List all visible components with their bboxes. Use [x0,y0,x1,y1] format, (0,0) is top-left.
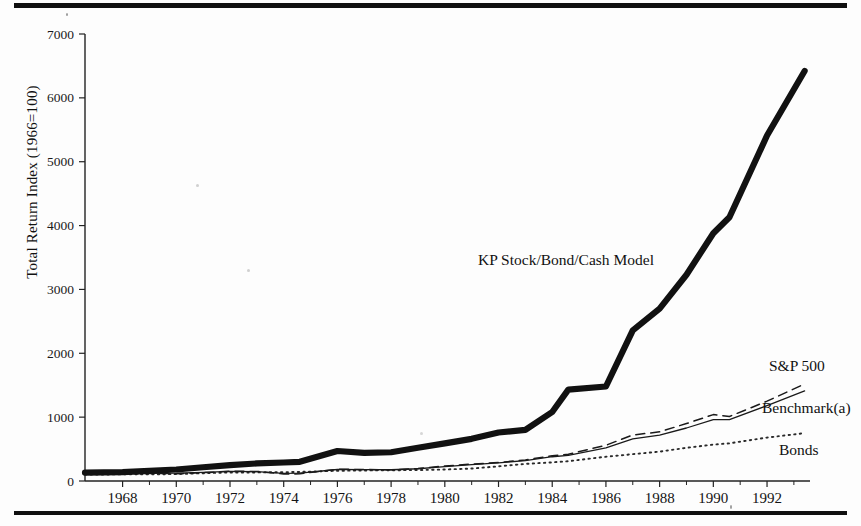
x-tick-group: 1968197019721974197619781980198219841986… [108,481,794,506]
y-tick-label: 3000 [47,282,74,297]
x-tick-label: 1984 [537,490,568,506]
data-series-thin-solid [85,391,805,474]
x-tick-label: 1988 [645,490,675,506]
y-tick-label: 0 [67,474,74,489]
x-tick-label: 1980 [430,490,460,506]
x-tick-label: 1982 [484,490,514,506]
y-tick-label: 2000 [47,346,74,361]
figure-canvas: Total Return Index (1966=100) 0100020003… [0,0,861,526]
y-tick-label: 6000 [47,90,74,105]
chart-plot: 01000200030004000500060007000 1968197019… [0,0,861,526]
x-tick-label: 1972 [215,490,245,506]
y-tick-label: 4000 [47,218,74,233]
x-tick-label: 1986 [591,490,622,506]
data-series-thick-solid [85,71,805,473]
x-tick-label: 1968 [108,490,138,506]
series-label-bonds: Bonds [779,441,819,458]
y-tick-label: 7000 [47,27,74,42]
series-label-kp-model: KP Stock/Bond/Cash Model [478,251,654,268]
series-label-sp500: S&P 500 [769,357,825,374]
x-tick-label: 1970 [161,490,191,506]
x-tick-label: 1974 [269,490,300,506]
y-tick-group: 01000200030004000500060007000 [47,27,85,489]
y-tick-label: 1000 [47,410,74,425]
series-label-benchmark: Benchmark(a) [762,399,851,417]
x-tick-label: 1990 [698,490,728,506]
x-tick-label: 1976 [322,490,353,506]
data-series-group [85,71,805,475]
x-tick-label: 1992 [752,490,782,506]
data-series-dashed [85,384,805,474]
x-tick-label: 1978 [376,490,406,506]
y-tick-label: 5000 [47,154,74,169]
